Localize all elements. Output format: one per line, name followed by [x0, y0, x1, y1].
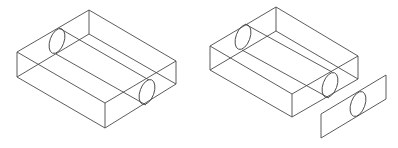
box2-hidden-edge — [276, 31, 358, 79]
box1-hidden-edge — [89, 34, 176, 84]
box1-bore-line — [56, 54, 146, 105]
box2-bore-line — [242, 50, 329, 98]
figure-box-exploded — [210, 7, 386, 138]
box1-top-face — [17, 10, 176, 103]
figure-box-with-bore — [17, 10, 176, 128]
diagram-canvas — [0, 0, 398, 148]
box1-bore-line — [59, 28, 149, 80]
box2-bore-line — [245, 24, 332, 72]
box1-edge — [17, 77, 105, 128]
box2-edge — [210, 70, 292, 117]
end-plate — [321, 75, 386, 138]
box2-top-face — [210, 7, 358, 94]
end-plate-hole — [347, 89, 369, 118]
box1-hidden-edge — [17, 34, 89, 77]
box1-hole-left — [46, 26, 68, 55]
